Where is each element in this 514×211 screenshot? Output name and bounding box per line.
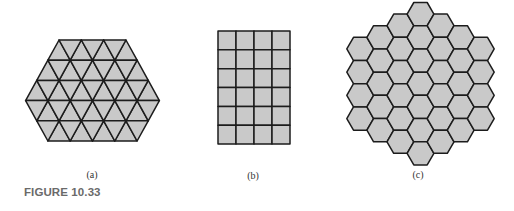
hexagon-tile <box>467 107 494 130</box>
square-tile <box>254 125 272 144</box>
square-tile <box>218 125 236 144</box>
panel-label-a: (a) <box>86 169 97 180</box>
square-tile <box>272 88 290 107</box>
square-tile <box>236 125 254 144</box>
square-tile <box>236 31 254 50</box>
figure-caption: FIGURE 10.33 <box>24 186 101 198</box>
square-tile <box>236 88 254 107</box>
square-tile <box>254 88 272 107</box>
square-tile <box>254 106 272 125</box>
square-tile <box>236 69 254 88</box>
square-tile <box>272 31 290 50</box>
square-tile <box>272 50 290 69</box>
square-tile <box>218 88 236 107</box>
hexagon-tile <box>467 84 494 107</box>
triangle-tiling <box>26 40 160 141</box>
square-tile <box>272 125 290 144</box>
square-tile <box>254 31 272 50</box>
square-tile <box>218 106 236 125</box>
square-tile <box>218 31 236 50</box>
square-tile <box>218 69 236 88</box>
hexagon-tiling <box>347 3 494 165</box>
hexagon-tile <box>467 61 494 84</box>
square-tile <box>272 69 290 88</box>
square-tile <box>254 50 272 69</box>
square-tiling <box>218 31 290 144</box>
panel-label-b: (b) <box>247 170 259 181</box>
square-tile <box>272 106 290 125</box>
square-tile <box>236 106 254 125</box>
square-tile <box>218 50 236 69</box>
hexagon-tile <box>467 37 494 60</box>
square-tile <box>254 69 272 88</box>
square-tile <box>236 50 254 69</box>
panel-label-c: (c) <box>412 169 423 180</box>
